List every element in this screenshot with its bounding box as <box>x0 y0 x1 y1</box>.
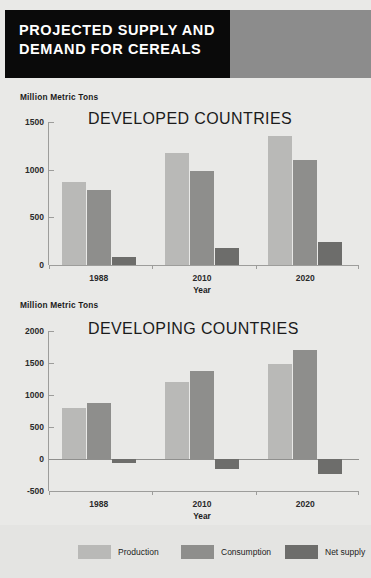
header-accent-block <box>230 10 371 78</box>
chart-0-ytick-label: 0 <box>39 260 44 270</box>
bar-production-1988 <box>62 182 86 265</box>
chart-1-xlabel-2020: 2020 <box>296 499 315 509</box>
bar-net-supply-2020 <box>318 459 342 474</box>
page-title-line-1: PROJECTED SUPPLY AND <box>19 21 230 40</box>
chart-1-ytick-mark <box>49 331 54 332</box>
chart-developing-countries: Million Metric Tons DEVELOPING COUNTRIES… <box>0 300 371 525</box>
chart-0-xtick-mark <box>152 265 153 269</box>
bar-production-2010 <box>165 382 189 459</box>
chart-1-ytick-mark <box>49 363 54 364</box>
chart-0-plot-area: 050010001500198820102020Year <box>48 122 358 265</box>
chart-legend: ProductionConsumptionNet supply <box>0 525 371 578</box>
chart-0-xtick-mark <box>256 265 257 269</box>
chart-0-unit-label: Million Metric Tons <box>20 92 98 102</box>
page-header: PROJECTED SUPPLY AND DEMAND FOR CEREALS <box>0 10 371 78</box>
chart-0-ytick-label: 1000 <box>25 165 44 175</box>
chart-0-xtick-mark <box>358 265 359 269</box>
chart-1-xtick-mark <box>256 491 257 495</box>
chart-1-xlabel-1988: 1988 <box>89 499 108 509</box>
chart-1-ytick-mark <box>49 427 54 428</box>
chart-1-xtick-mark <box>152 491 153 495</box>
chart-1-unit-label: Million Metric Tons <box>20 300 98 310</box>
legend-label-consumption: Consumption <box>221 547 271 557</box>
chart-1-xtick-mark <box>358 491 359 495</box>
chart-1-zero-line <box>49 459 359 460</box>
chart-1-axis-title-x: Year <box>193 511 211 521</box>
chart-0-ytick-mark <box>49 170 54 171</box>
chart-0-xlabel-1988: 1988 <box>89 273 108 283</box>
bar-consumption-2020 <box>293 160 317 265</box>
legend-swatch-consumption <box>181 545 214 559</box>
chart-1-ytick-label: 0 <box>39 454 44 464</box>
bar-net-supply-2020 <box>318 242 342 265</box>
chart-developed-countries: Million Metric Tons DEVELOPED COUNTRIES … <box>0 92 371 292</box>
bar-consumption-2010 <box>190 171 214 265</box>
bar-consumption-1988 <box>87 190 111 265</box>
title-box: PROJECTED SUPPLY AND DEMAND FOR CEREALS <box>5 10 230 78</box>
chart-0-ytick-mark <box>49 122 54 123</box>
legend-swatch-production <box>78 545 111 559</box>
chart-0-xtick-mark <box>49 265 50 269</box>
bar-consumption-2010 <box>190 371 214 459</box>
bar-net-supply-1988 <box>112 459 136 463</box>
bar-production-1988 <box>62 408 86 459</box>
chart-1-ytick-label: 500 <box>30 422 44 432</box>
chart-1-xtick-mark <box>49 491 50 495</box>
chart-1-plot-area: -5000500100015002000198820102020Year <box>48 331 358 491</box>
bar-consumption-1988 <box>87 403 111 459</box>
bar-production-2020 <box>268 364 292 459</box>
chart-0-zero-line <box>49 265 359 266</box>
bar-production-2020 <box>268 136 292 265</box>
page-title-line-2: DEMAND FOR CEREALS <box>19 40 230 59</box>
chart-1-ytick-label: 2000 <box>25 326 44 336</box>
bar-consumption-2020 <box>293 350 317 459</box>
chart-1-ytick-label: 1500 <box>25 358 44 368</box>
chart-1-xlabel-2010: 2010 <box>193 499 212 509</box>
legend-label-net-supply: Net supply <box>325 547 365 557</box>
chart-0-xlabel-2020: 2020 <box>296 273 315 283</box>
bar-net-supply-2010 <box>215 248 239 265</box>
chart-1-ytick-label: 1000 <box>25 390 44 400</box>
legend-label-production: Production <box>118 547 159 557</box>
bar-production-2010 <box>165 153 189 265</box>
bar-net-supply-1988 <box>112 257 136 265</box>
bar-net-supply-2010 <box>215 459 239 469</box>
chart-1-ytick-mark <box>49 395 54 396</box>
chart-0-ytick-label: 500 <box>30 212 44 222</box>
chart-0-ytick-label: 1500 <box>25 117 44 127</box>
chart-1-ytick-label: -500 <box>27 486 44 496</box>
legend-swatch-net-supply <box>285 545 318 559</box>
chart-1-axis-line <box>49 491 359 492</box>
chart-0-xlabel-2010: 2010 <box>193 273 212 283</box>
chart-0-axis-title-x: Year <box>193 285 211 295</box>
chart-0-ytick-mark <box>49 217 54 218</box>
